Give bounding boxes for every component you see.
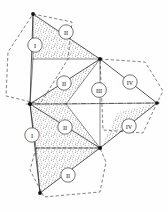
vertex-top — [31, 12, 35, 16]
facet-label-7: II — [58, 120, 72, 134]
label-text-6: I — [31, 132, 33, 139]
label-text-5: IV — [127, 79, 134, 86]
label-text-9: II — [66, 172, 70, 179]
facet-label-3: II — [57, 76, 71, 90]
facet-label-8: IV — [122, 119, 136, 133]
vertex-right — [155, 101, 159, 105]
label-text-3: II — [62, 80, 66, 87]
facet-label-1: I — [28, 38, 42, 52]
vertex-bottom — [38, 191, 42, 195]
facet-label-4: III — [92, 83, 107, 98]
label-text-2: II — [64, 29, 68, 36]
label-text-1: I — [34, 42, 36, 49]
facet-label-5: IV — [123, 75, 137, 89]
label-text-4: III — [96, 87, 102, 94]
diagram-canvas: I II II III IV I — [0, 0, 168, 212]
vertex-upper-center — [98, 57, 102, 61]
facet-label-9: II — [61, 168, 75, 182]
vertex-left — [28, 102, 32, 106]
polyhedral-net-svg: I II II III IV I — [0, 0, 168, 212]
facet-label-6: I — [25, 128, 39, 142]
label-text-7: II — [63, 124, 67, 131]
facet-label-2: II — [59, 25, 73, 39]
label-text-8: IV — [126, 123, 133, 130]
vertex-lower-center — [98, 146, 102, 150]
